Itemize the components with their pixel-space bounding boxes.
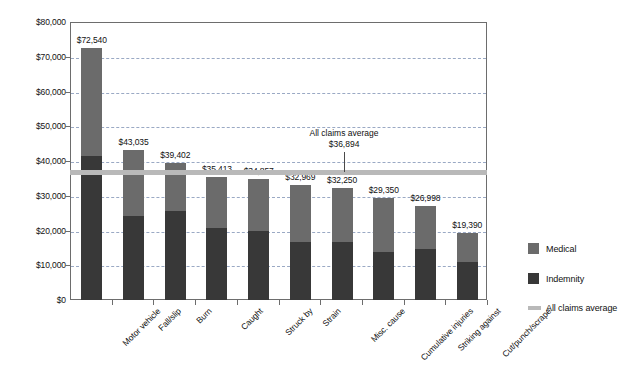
y-tick-label: $20,000: [0, 226, 66, 236]
bar-value-label: $29,350: [369, 185, 399, 195]
y-tick-label: $0: [0, 295, 66, 305]
legend-label: All claims average: [546, 303, 617, 313]
bar-segment-medical[interactable]: [332, 188, 353, 242]
legend-item[interactable]: Medical: [528, 243, 576, 254]
bar-segment-medical[interactable]: [248, 179, 269, 231]
bar-group[interactable]: [248, 179, 269, 300]
bar-group[interactable]: [165, 163, 186, 300]
bar-segment-indemnity[interactable]: [457, 262, 478, 300]
bar-segment-indemnity[interactable]: [415, 249, 436, 300]
average-leader-line: [344, 152, 345, 172]
bar-value-label: $26,998: [410, 193, 440, 203]
bar-segment-indemnity[interactable]: [81, 156, 102, 300]
y-tick-label: $80,000: [0, 17, 66, 27]
legend-swatch-square-icon: [528, 243, 539, 254]
bar-group[interactable]: [290, 185, 311, 300]
bar-value-label: $32,250: [327, 175, 357, 185]
x-tick-mark: [153, 300, 154, 305]
bar-segment-indemnity[interactable]: [290, 242, 311, 300]
bar-segment-indemnity[interactable]: [206, 228, 227, 300]
y-tick-label: $70,000: [0, 52, 66, 62]
average-annotation: All claims average $36,894: [310, 128, 379, 150]
stacked-bar-chart: $0$10,000$20,000$30,000$40,000$50,000$60…: [0, 0, 620, 382]
y-tick-label: $40,000: [0, 156, 66, 166]
average-annotation-value: $36,894: [310, 139, 379, 150]
bar-value-label: $19,390: [452, 220, 482, 230]
bar-segment-medical[interactable]: [290, 185, 311, 242]
all-claims-average-line: [70, 170, 487, 175]
legend-label: Indemnity: [546, 274, 584, 284]
legend-item[interactable]: All claims average: [528, 303, 617, 313]
x-tick-mark: [445, 300, 446, 305]
bar-segment-medical[interactable]: [206, 177, 227, 228]
x-tick-label: Burn: [194, 306, 213, 325]
x-tick-mark: [237, 300, 238, 305]
bar-segment-medical[interactable]: [123, 150, 144, 215]
average-annotation-label: All claims average: [310, 128, 379, 139]
bar-segment-indemnity[interactable]: [373, 252, 394, 300]
bar-segment-indemnity[interactable]: [165, 211, 186, 300]
bar-segment-medical[interactable]: [81, 48, 102, 156]
bar-segment-medical[interactable]: [373, 198, 394, 252]
x-tick-mark: [320, 300, 321, 305]
bars-layer: [70, 22, 487, 300]
x-tick-mark: [487, 300, 488, 305]
x-tick-label: Motor vehicle: [120, 306, 162, 348]
bar-segment-indemnity[interactable]: [248, 231, 269, 301]
bar-group[interactable]: [373, 198, 394, 300]
bar-value-label: $43,035: [119, 137, 149, 147]
y-tick-label: $50,000: [0, 121, 66, 131]
bar-group[interactable]: [206, 177, 227, 300]
y-tick-label: $30,000: [0, 191, 66, 201]
x-tick-mark: [362, 300, 363, 305]
bar-segment-indemnity[interactable]: [332, 242, 353, 300]
x-tick-mark: [112, 300, 113, 305]
x-tick-label: Strain: [321, 306, 343, 328]
bar-group[interactable]: [415, 206, 436, 300]
legend-swatch-line-icon: [528, 306, 541, 310]
bar-segment-medical[interactable]: [457, 233, 478, 262]
x-tick-mark: [404, 300, 405, 305]
bar-value-label: $39,402: [160, 150, 190, 160]
x-tick-mark: [195, 300, 196, 305]
y-tick-label: $60,000: [0, 87, 66, 97]
legend-item[interactable]: Indemnity: [528, 273, 584, 284]
bar-segment-indemnity[interactable]: [123, 216, 144, 300]
bar-value-label: $72,540: [77, 35, 107, 45]
x-tick-mark: [279, 300, 280, 305]
bar-group[interactable]: [332, 188, 353, 300]
legend-label: Medical: [546, 244, 576, 254]
bar-segment-medical[interactable]: [415, 206, 436, 249]
y-tick-label: $10,000: [0, 260, 66, 270]
legend-swatch-square-icon: [528, 273, 539, 284]
bar-group[interactable]: [457, 233, 478, 300]
x-tick-label: Struck by: [283, 306, 314, 337]
x-tick-label: Caught: [239, 306, 265, 332]
x-tick-label: Cut/punch/scrape: [500, 306, 553, 359]
x-tick-label: Misc. cause: [369, 306, 407, 344]
